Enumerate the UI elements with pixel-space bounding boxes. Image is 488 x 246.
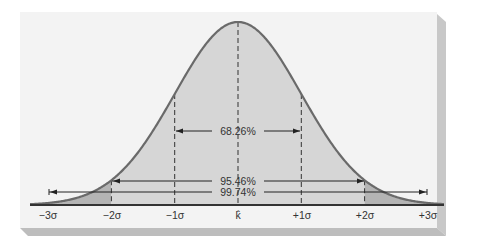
tick-plus-3-sigma: +3σ	[419, 209, 438, 221]
tick-plus-2-sigma: +2σ	[356, 209, 375, 221]
annotation-99-label: 99.74%	[220, 186, 256, 198]
annotation-68-label: 68.26%	[220, 125, 256, 137]
tick-minus-1-sigma: −1σ	[166, 209, 185, 221]
normal-distribution-figure: 68.26% 95.46% 99.74% −3σ −2σ −1σ k̂ +1σ …	[0, 0, 488, 246]
tick-minus-3-sigma: −3σ	[39, 209, 58, 221]
tick-plus-1-sigma: +1σ	[293, 209, 312, 221]
panel-shadow-bottom	[20, 228, 446, 236]
tick-mean-k-hat: k̂	[235, 209, 241, 221]
tick-minus-2-sigma: −2σ	[103, 209, 122, 221]
